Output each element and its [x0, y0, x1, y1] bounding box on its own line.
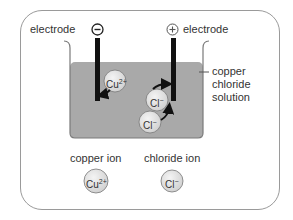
- negative-electrode-label: electrode: [30, 23, 75, 36]
- solution-label-line2: chloride: [212, 78, 251, 91]
- chloride-ion-symbol-1: Cl−: [150, 94, 164, 110]
- copper-chloride-solution: [70, 62, 203, 138]
- copper-ion-key-label: copper ion: [70, 152, 121, 165]
- negative-sign-icon: [92, 24, 103, 35]
- solution-label-line1: copper: [212, 65, 246, 78]
- solution-label-line3: solution: [212, 91, 250, 104]
- beaker: [64, 41, 209, 138]
- positive-electrode: [171, 38, 176, 101]
- chloride-ion-key-label: chloride ion: [144, 152, 200, 165]
- chloride-ion-symbol-2: Cl−: [143, 116, 157, 132]
- negative-electrode: [95, 38, 100, 101]
- positive-electrode-label: electrode: [183, 23, 228, 36]
- copper-ion-key-symbol: Cu2+: [86, 175, 107, 191]
- positive-sign-icon: [167, 24, 178, 35]
- chloride-ion-key-symbol: Cl−: [165, 175, 179, 191]
- copper-ion-symbol: Cu2+: [106, 75, 127, 91]
